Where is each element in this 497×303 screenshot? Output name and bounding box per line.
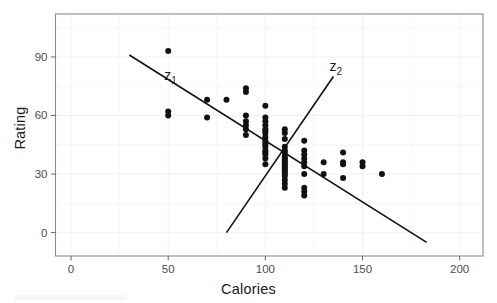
- data-point: [204, 114, 210, 120]
- z2-axis-line: [227, 76, 334, 232]
- data-point: [262, 161, 268, 167]
- x-tick-label: 200: [450, 263, 469, 275]
- data-point: [262, 103, 268, 109]
- y-tick-label: 60: [35, 109, 48, 121]
- data-point: [243, 132, 249, 138]
- x-tick-label: 100: [256, 263, 275, 275]
- x-tick-label: 50: [162, 263, 175, 275]
- data-point: [165, 48, 171, 54]
- curve-label-z2: z2: [329, 58, 342, 77]
- x-tick-label: 150: [353, 263, 372, 275]
- data-point: [262, 155, 268, 161]
- y-tick-label: 90: [35, 51, 48, 63]
- data-point: [224, 97, 230, 103]
- axis-ticks: [51, 57, 460, 261]
- data-point: [301, 138, 307, 144]
- data-point: [243, 126, 249, 132]
- data-point: [165, 112, 171, 118]
- grid-layer: [56, 14, 484, 256]
- data-point: [301, 193, 307, 199]
- data-point: [340, 150, 346, 156]
- scatter-plot-figure: 0501001502000306090 z1z2 Calories Rating: [0, 0, 497, 303]
- data-point: [243, 89, 249, 95]
- data-point: [243, 112, 249, 118]
- page-artifact: [14, 295, 126, 300]
- curve-label-z1: z1: [164, 67, 177, 86]
- data-point: [340, 175, 346, 181]
- plot-canvas: 0501001502000306090 z1z2: [0, 0, 497, 303]
- data-point: [301, 171, 307, 177]
- data-point: [321, 171, 327, 177]
- y-axis-title: Rating: [12, 78, 28, 178]
- data-point: [282, 136, 288, 142]
- data-point: [379, 171, 385, 177]
- x-tick-label: 0: [68, 263, 74, 275]
- data-point: [340, 161, 346, 167]
- data-point: [321, 159, 327, 165]
- axis-tick-labels: 0501001502000306090: [35, 51, 470, 275]
- data-point: [282, 185, 288, 191]
- data-point: [301, 163, 307, 169]
- data-point: [204, 97, 210, 103]
- data-point: [282, 130, 288, 136]
- y-tick-label: 30: [35, 168, 48, 180]
- data-point: [360, 163, 366, 169]
- y-tick-label: 0: [41, 227, 47, 239]
- curve-annotations: z1z2: [164, 58, 342, 87]
- data-points-layer: [165, 48, 385, 198]
